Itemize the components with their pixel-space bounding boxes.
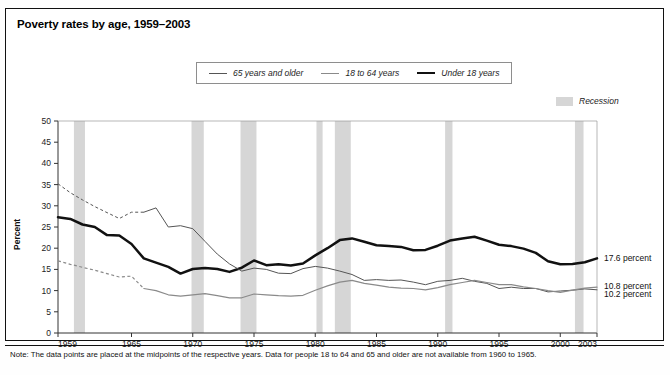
svg-text:1970: 1970 [183, 339, 202, 349]
svg-text:1985: 1985 [367, 339, 386, 349]
note-divider [5, 345, 664, 346]
chart-axes [54, 121, 597, 337]
plot-area: 0510152025303540455019591965197019751980… [0, 0, 670, 375]
svg-text:15: 15 [42, 264, 52, 274]
svg-text:10: 10 [42, 286, 52, 296]
line-chart: 0510152025303540455019591965197019751980… [0, 0, 670, 375]
svg-text:2000: 2000 [551, 339, 570, 349]
recession-bands [74, 121, 584, 333]
svg-text:35: 35 [42, 180, 52, 190]
svg-text:1980: 1980 [306, 339, 325, 349]
svg-text:10.2 percent: 10.2 percent [604, 289, 652, 299]
svg-text:45: 45 [42, 137, 52, 147]
svg-text:1965: 1965 [122, 339, 141, 349]
svg-text:17.6 percent: 17.6 percent [604, 253, 652, 263]
svg-text:40: 40 [42, 158, 52, 168]
chart-note: Note: The data points are placed at the … [10, 350, 660, 360]
svg-text:25: 25 [42, 222, 52, 232]
svg-text:20: 20 [42, 243, 52, 253]
svg-text:1990: 1990 [428, 339, 447, 349]
svg-text:30: 30 [42, 201, 52, 211]
series-lines [58, 184, 597, 298]
y-axis-label: Percent [12, 219, 22, 250]
svg-text:50: 50 [42, 116, 52, 126]
svg-text:2003: 2003 [578, 339, 597, 349]
svg-text:0: 0 [46, 328, 51, 338]
chart-page: Poverty rates by age, 1959–2003 65 years… [0, 0, 670, 375]
end-value-labels: 17.6 percent10.8 percent10.2 percent [604, 253, 652, 299]
svg-text:1995: 1995 [490, 339, 509, 349]
svg-text:5: 5 [46, 307, 51, 317]
svg-text:1975: 1975 [245, 339, 264, 349]
svg-text:1959: 1959 [58, 339, 77, 349]
